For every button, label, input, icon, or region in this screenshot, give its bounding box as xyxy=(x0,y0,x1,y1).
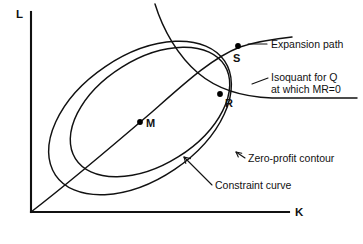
annotation-isoquant-line1: Isoquant for Q xyxy=(271,71,338,83)
economics-diagram: L K M R S Expansion path Isoquant for Q … xyxy=(0,0,363,244)
point-label-r: R xyxy=(225,97,233,109)
annotation-expansion-path: Expansion path xyxy=(271,38,344,50)
constraint-curve-ellipse xyxy=(47,20,252,203)
y-axis-label: L xyxy=(16,8,23,20)
point-marker-r xyxy=(217,91,223,97)
point-marker-s xyxy=(235,43,241,49)
annotation-constraint-curve: Constraint curve xyxy=(215,179,292,191)
constraint-curve-leader xyxy=(184,157,212,185)
x-axis-label: K xyxy=(295,206,304,218)
point-label-m: M xyxy=(146,117,155,129)
annotation-isoquant-line2: at which MR=0 xyxy=(271,83,341,95)
isoquant-leader xyxy=(252,78,268,84)
point-marker-m xyxy=(137,119,143,125)
point-label-s: S xyxy=(233,52,240,64)
diagram-canvas: L K M R S Expansion path Isoquant for Q … xyxy=(0,0,363,244)
annotation-zero-profit-contour: Zero-profit contour xyxy=(248,152,335,164)
zero-profit-contour-ellipse xyxy=(21,10,259,227)
